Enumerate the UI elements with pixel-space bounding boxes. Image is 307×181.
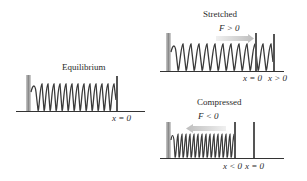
stretched-title: Stretched — [203, 9, 237, 19]
compressed-title: Compressed — [197, 97, 242, 107]
spring-diagram: Equilibrium x = 0 Stretched F > 0 x = 0 … — [0, 0, 307, 181]
position-label: x < 0 — [222, 161, 243, 171]
force-label: F < 0 — [197, 111, 219, 121]
stretched-panel: Stretched F > 0 x = 0 x > 0 — [160, 9, 288, 83]
equilibrium-title: Equilibrium — [62, 62, 106, 72]
force-label: F > 0 — [218, 23, 240, 33]
position-label: x = 0 — [111, 113, 132, 123]
equilibrium-marker — [253, 122, 255, 158]
ref-label: x = 0 — [244, 161, 265, 171]
arrow-right-icon — [216, 34, 254, 43]
mass-rod — [273, 34, 275, 71]
ref-label: x = 0 — [242, 73, 263, 83]
spring-icon — [171, 134, 235, 157]
arrow-left-icon — [186, 124, 226, 133]
spring-icon — [171, 44, 273, 70]
mass-rod — [234, 122, 236, 158]
wall-icon — [166, 33, 171, 71]
wall-icon — [26, 75, 31, 111]
spring-icon — [31, 84, 116, 110]
equilibrium-panel: Equilibrium x = 0 — [16, 62, 145, 123]
equilibrium-marker — [255, 33, 257, 71]
compressed-panel: Compressed F < 0 x < 0 x = 0 — [160, 97, 284, 171]
position-label: x > 0 — [267, 73, 288, 83]
wall-icon — [166, 122, 171, 158]
mass-rod — [116, 76, 118, 111]
